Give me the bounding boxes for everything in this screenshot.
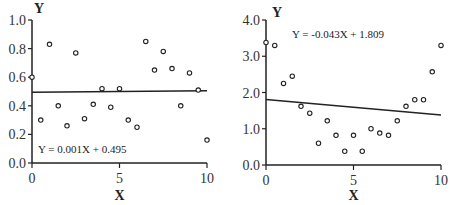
data-point <box>264 40 268 44</box>
data-point <box>82 116 86 120</box>
y-tick-label: 2.0 <box>243 86 261 101</box>
data-point <box>386 133 390 137</box>
chart-1: 0.00.20.40.60.81.00510XYY = 0.001X + 0.4… <box>9 1 215 203</box>
x-tick-label: 10 <box>434 173 448 188</box>
data-point <box>30 75 34 79</box>
y-tick-label: 4.0 <box>243 13 261 28</box>
regression-equation: Y = 0.001X + 0.495 <box>38 143 127 155</box>
data-point <box>395 119 399 123</box>
data-point <box>404 104 408 108</box>
data-point <box>205 138 209 142</box>
data-point <box>308 111 312 115</box>
data-point <box>343 149 347 153</box>
x-tick-label: 10 <box>200 171 214 186</box>
data-point <box>421 98 425 102</box>
data-point <box>187 71 191 75</box>
data-point <box>74 51 78 55</box>
y-axis-title: Y <box>272 5 282 20</box>
data-point <box>65 124 69 128</box>
data-point <box>47 42 51 46</box>
data-point <box>369 127 373 131</box>
data-point <box>281 81 285 85</box>
y-tick-label: 0.0 <box>243 158 261 173</box>
y-tick-label: 0.2 <box>9 127 27 142</box>
x-axis-title: X <box>114 188 124 203</box>
y-tick-label: 0.6 <box>9 70 27 85</box>
chart-2: 0.01.02.03.04.00510XYY = -0.043X + 1.809 <box>243 5 449 203</box>
data-point <box>325 119 329 123</box>
data-point <box>126 118 130 122</box>
data-point <box>109 105 113 109</box>
data-point <box>144 39 148 43</box>
y-tick-label: 3.0 <box>243 49 261 64</box>
data-point <box>117 86 121 90</box>
data-point <box>161 49 165 53</box>
data-point <box>430 70 434 74</box>
x-tick-label: 0 <box>263 173 270 188</box>
data-point <box>170 66 174 70</box>
scatter-charts: 0.00.20.40.60.81.00510XYY = 0.001X + 0.4… <box>0 0 450 205</box>
data-point <box>360 149 364 153</box>
y-tick-label: 0.4 <box>9 99 27 114</box>
data-point <box>100 86 104 90</box>
y-tick-label: 0.0 <box>9 156 27 171</box>
data-point <box>179 104 183 108</box>
data-point <box>413 98 417 102</box>
y-tick-label: 1.0 <box>243 122 261 137</box>
data-point <box>299 104 303 108</box>
data-point <box>135 125 139 129</box>
data-point <box>273 43 277 47</box>
y-tick-label: 1.0 <box>9 13 27 28</box>
data-point <box>378 131 382 135</box>
data-point <box>91 102 95 106</box>
data-point <box>196 88 200 92</box>
data-point <box>439 43 443 47</box>
data-point <box>56 104 60 108</box>
data-point <box>334 133 338 137</box>
data-point <box>351 133 355 137</box>
y-axis-title: Y <box>34 1 44 16</box>
x-tick-label: 0 <box>29 171 36 186</box>
regression-equation: Y = -0.043X + 1.809 <box>292 28 385 40</box>
data-point <box>39 118 43 122</box>
data-point <box>152 68 156 72</box>
x-tick-label: 5 <box>116 171 123 186</box>
x-tick-label: 5 <box>350 173 357 188</box>
data-point <box>290 74 294 78</box>
y-tick-label: 0.8 <box>9 42 27 57</box>
x-axis-title: X <box>348 188 358 203</box>
data-point <box>316 141 320 145</box>
